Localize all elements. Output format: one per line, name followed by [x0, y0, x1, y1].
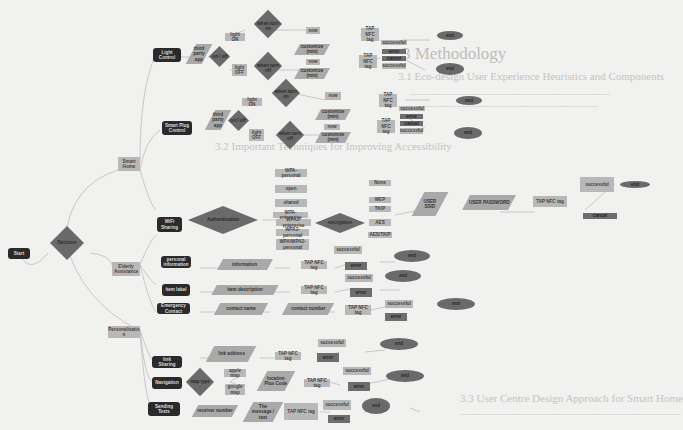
enc-option-0: None: [369, 180, 391, 186]
error-text: error: [328, 415, 350, 423]
error-item: error: [350, 288, 372, 297]
apple-map: apple map: [224, 369, 246, 377]
light-off-2: light OFF: [249, 129, 264, 141]
light-off-1: light OFF: [232, 64, 247, 76]
google-map: google map: [225, 384, 245, 395]
on-off-label-2: on / off: [228, 116, 248, 126]
error-nav: error: [348, 382, 370, 391]
error-info: error: [345, 262, 367, 270]
end-4: end: [454, 127, 482, 139]
when-turn-on-label-2: when turn on: [274, 88, 298, 100]
contact-name-input: contact name: [214, 303, 268, 315]
enc-option-1: WEP: [369, 197, 391, 203]
information-input: information: [217, 259, 273, 270]
sending-texts-node: Sending Texts: [148, 402, 180, 416]
now-4: now: [324, 124, 340, 130]
emergency-contact-node: Emergency Contact: [157, 303, 190, 314]
end-2: end: [436, 63, 464, 75]
successful-3: successful: [399, 106, 425, 111]
tap-nfc-tag-contact: TAP NFC tag: [345, 305, 371, 315]
light-on-1: light ON: [225, 33, 245, 41]
end-link: end: [380, 338, 418, 350]
tap-nfc-tag-nav: TAP NFC tag: [304, 379, 330, 387]
smart-plug-control-node: Smart Plug Control: [162, 121, 192, 135]
tap-nfc-tag-wifi: TAP NFC tag: [533, 196, 567, 207]
end-wifi: end: [620, 181, 650, 188]
map-type-label: map type: [188, 377, 212, 387]
personal-information-node: personal information: [161, 256, 191, 268]
end-contact: end: [437, 298, 475, 310]
successful-item: successful: [345, 274, 373, 282]
auth-option-6: WPA/WPA2-personal: [276, 239, 309, 250]
customize-4: customize (min): [315, 132, 351, 143]
tap-nfc-tag-text: TAP NFC tag: [284, 403, 318, 420]
end-nav: end: [386, 370, 424, 382]
cancel-1: cancel: [382, 56, 406, 61]
now-1: now: [306, 27, 320, 34]
start-node: Start: [8, 248, 30, 259]
wifi-sharing-node: WiFi Sharing: [157, 217, 182, 232]
error-1: error: [382, 49, 406, 54]
enc-option-2: TKIP: [369, 206, 391, 212]
when-turn-off-label-1: when turn off: [256, 62, 280, 74]
when-turn-on-label-1: when turn on: [256, 20, 280, 32]
now-3: now: [325, 92, 341, 100]
tap-nfc-tag-3: TAP NFC tag: [379, 94, 397, 107]
light-control-node: Light Control: [153, 48, 181, 62]
auth-option-2: shared: [275, 199, 307, 207]
end-info-1: end: [394, 250, 430, 262]
enc-option-4: AES/TKIP: [368, 232, 392, 238]
successful-text: successful: [323, 400, 351, 410]
customize-3: customize (min): [315, 109, 351, 120]
end-text: end: [362, 398, 390, 414]
end-3: end: [456, 96, 482, 105]
cancel-2: cancel: [400, 121, 423, 126]
tap-nfc-tag-info: TAP NFC tag: [301, 261, 327, 269]
successful-link: successful: [318, 339, 346, 347]
end-1: end: [437, 31, 463, 40]
decision-label: Decision: [45, 238, 89, 248]
authentication-label: Authentication: [188, 215, 258, 225]
tap-nfc-tag-link: TAP NFC tag: [275, 352, 301, 360]
personalisation-node: Personalisatio n: [108, 326, 140, 338]
error-link: error: [317, 353, 339, 362]
customize-1: customize (min): [294, 44, 330, 55]
auth-option-5: WPA2-personal: [276, 229, 309, 236]
error-contact: error: [385, 313, 407, 321]
successful-contact: successful: [385, 300, 413, 308]
end-item: end: [385, 270, 421, 282]
receiver-number-input: receiver number: [192, 405, 238, 417]
navigation-node: Navigation: [152, 377, 182, 389]
auth-option-1: open: [275, 185, 307, 193]
tap-nfc-tag-1: TAP NFC tag: [361, 28, 379, 41]
item-description-input: item description: [211, 285, 278, 295]
link-sharing-node: link Sharing: [152, 356, 182, 368]
cancel-wifi: cancel: [583, 213, 617, 219]
auth-option-4: WPA2-enterprise: [276, 219, 311, 226]
error-2: error: [400, 114, 423, 119]
smart-home-node: Smart Home: [118, 157, 140, 171]
now-2: now: [306, 59, 320, 65]
successful-4: successful: [400, 128, 423, 134]
item-label-node: item label: [162, 284, 190, 296]
user-password: USER PASSWORD: [462, 195, 516, 210]
successful-info: successful: [334, 246, 362, 254]
elderly-assistance-node: Elderly Assistance: [112, 262, 140, 276]
successful-nav: successful: [343, 367, 371, 375]
tap-nfc-tag-item: TAP NFC tag: [301, 286, 327, 294]
successful-1: successful: [381, 40, 407, 45]
tap-nfc-tag-4: TAP NFC tag: [377, 120, 395, 133]
enc-option-3: AES: [369, 219, 391, 226]
successful-wifi: successful: [580, 177, 614, 192]
successful-2: successful: [382, 63, 406, 69]
auth-option-0: WPA-personal: [275, 169, 307, 177]
contact-number-input: contact number: [282, 303, 334, 315]
when-turn-off-label-2: when turn off: [278, 130, 302, 142]
link-address-input: link address: [206, 346, 257, 362]
customize-2: customize (min): [294, 68, 330, 79]
encryption-label: encryption: [315, 218, 365, 228]
on-off-label-1: on / off: [210, 52, 230, 62]
light-on-2: light ON: [242, 98, 262, 106]
